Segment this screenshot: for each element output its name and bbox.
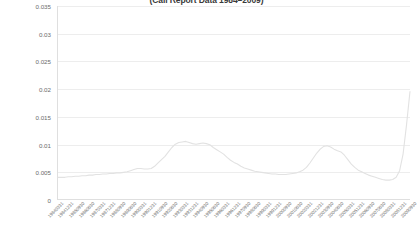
series-line: [58, 92, 410, 180]
y-axis-tick-label: 0.025: [36, 58, 51, 65]
y-axis-tick-label: 0.015: [36, 113, 51, 120]
y-axis-tick-label: 0: [48, 197, 51, 204]
x-axis: 1984033119841231198509301986063019870331…: [57, 201, 410, 240]
y-axis-tick-label: 0.01: [39, 141, 51, 148]
y-axis-tick-label: 0.03: [39, 30, 51, 37]
y-axis: 0.0350.030.0250.020.0150.010.0050: [0, 6, 55, 200]
y-axis-tick-label: 0.02: [39, 86, 51, 93]
y-axis-tick-label: 0.005: [36, 169, 51, 176]
plot-area: [57, 6, 410, 200]
series-svg: [58, 6, 410, 199]
y-axis-tick-label: 0.035: [36, 3, 51, 10]
